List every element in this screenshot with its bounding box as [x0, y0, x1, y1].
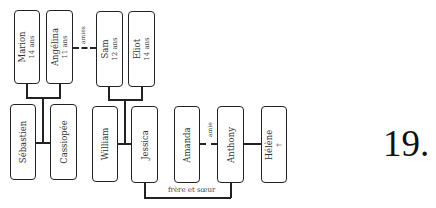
deceased-dagger-icon: † — [274, 129, 284, 160]
person-name: Cassiopée — [59, 120, 69, 164]
person-box-angelina: Angélina 11 ans — [46, 10, 73, 84]
friend-link-dashed — [73, 47, 96, 49]
person-box-sebastien: Sébastien — [10, 104, 36, 180]
connector-line — [124, 99, 126, 144]
person-age: 12 ans — [110, 37, 120, 60]
person-name: Marion — [17, 31, 27, 62]
person-box-william: William — [92, 106, 118, 182]
person-box-marion: Marion 14 ans — [14, 10, 40, 84]
relation-label-amies: amies — [79, 26, 86, 44]
person-name: William — [100, 128, 110, 161]
connector-line — [59, 84, 61, 98]
exercise-number: 19. — [383, 122, 429, 165]
connector-line — [118, 143, 131, 145]
connector-line — [36, 142, 50, 144]
person-name: Sam — [100, 37, 110, 60]
person-box-helene: Hélène † — [261, 106, 287, 183]
person-box-anthony: Anthony — [217, 106, 244, 183]
person-name: Amanda — [182, 127, 192, 162]
connector-line — [144, 197, 231, 199]
person-name: Angélina — [50, 28, 60, 66]
person-age: 11 ans — [60, 28, 70, 66]
person-box-eliot: Eliot 14 ans — [128, 11, 155, 87]
connector-line — [26, 84, 28, 98]
relation-label-amie: amie — [206, 122, 213, 137]
person-box-amanda: Amanda — [174, 106, 200, 183]
friend-link-dashed — [200, 143, 217, 145]
relation-label-siblings: frère et sœur — [168, 186, 215, 194]
person-name: Anthony — [226, 127, 236, 163]
person-name: Sébastien — [18, 121, 28, 163]
person-name: Eliot — [132, 37, 142, 60]
person-box-cassiopee: Cassiopée — [50, 104, 77, 180]
person-box-jessica: Jessica — [131, 106, 158, 183]
person-name: Hélène — [264, 129, 274, 160]
connector-line — [42, 97, 44, 143]
connector-line — [230, 183, 232, 198]
person-box-sam: Sam 12 ans — [96, 11, 123, 87]
person-age: 14 ans — [142, 37, 152, 60]
person-age: 14 ans — [27, 31, 37, 62]
person-name: Jessica — [140, 130, 150, 160]
connector-line — [144, 183, 146, 198]
connector-line — [244, 143, 261, 145]
